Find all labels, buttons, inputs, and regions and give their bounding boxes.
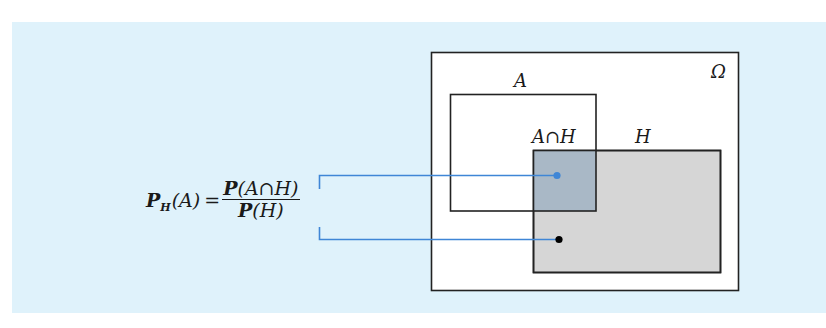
intersection-dot xyxy=(553,172,560,179)
conditional-probability-formula: P H (A) = P(A∩H) P(H) xyxy=(146,178,300,221)
set-h-label: H xyxy=(635,126,651,147)
numerator-probability-symbol: P xyxy=(223,177,237,199)
venn-diagram xyxy=(0,0,826,328)
formula-lhs: P H (A) xyxy=(146,189,200,211)
lhs-probability-symbol: P xyxy=(146,189,160,211)
intersection-label: A∩H xyxy=(532,126,576,147)
denominator-argument: (H) xyxy=(252,199,283,221)
omega-label: Ω xyxy=(711,61,726,82)
fraction-denominator: P(H) xyxy=(238,200,284,221)
numerator-argument: (A∩H) xyxy=(237,177,298,199)
intersection-region xyxy=(534,151,597,212)
fraction: P(A∩H) P(H) xyxy=(222,178,299,221)
h-dot xyxy=(555,236,562,243)
lhs-subscript: H xyxy=(160,201,170,214)
equals-sign: = xyxy=(204,189,220,211)
set-a-label: A xyxy=(514,70,527,91)
lhs-argument: (A) xyxy=(172,189,201,211)
fraction-numerator: P(A∩H) xyxy=(222,178,299,200)
denominator-probability-symbol: P xyxy=(238,199,252,221)
